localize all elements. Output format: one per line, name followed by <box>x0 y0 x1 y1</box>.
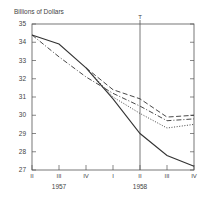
y-tick-label: 32 <box>6 75 26 82</box>
x-tick-label: IV <box>184 173 204 179</box>
x-tick-label: II <box>22 173 42 179</box>
x-tick-label: III <box>157 173 177 179</box>
y-tick-label: 30 <box>6 111 26 118</box>
y-tick-label: 27 <box>6 166 26 173</box>
y-axis-title: Billions of Dollars <box>14 8 64 15</box>
x-tick-label: II <box>130 173 150 179</box>
series-lines <box>32 35 194 166</box>
y-tick-label: 34 <box>6 38 26 45</box>
y-tick-label: 31 <box>6 93 26 100</box>
vertical-marker-label: T <box>135 14 145 20</box>
year-label: 1957 <box>44 183 74 190</box>
y-tick-label: 35 <box>6 20 26 27</box>
x-tick-label: III <box>49 173 69 179</box>
x-tick-label: I <box>103 173 123 179</box>
y-tick-label: 28 <box>6 148 26 155</box>
x-tick-label: IV <box>76 173 96 179</box>
y-tick-label: 29 <box>6 130 26 137</box>
series-line-dash-dot <box>32 35 194 121</box>
y-tick-label: 33 <box>6 57 26 64</box>
year-label: 1958 <box>125 183 155 190</box>
